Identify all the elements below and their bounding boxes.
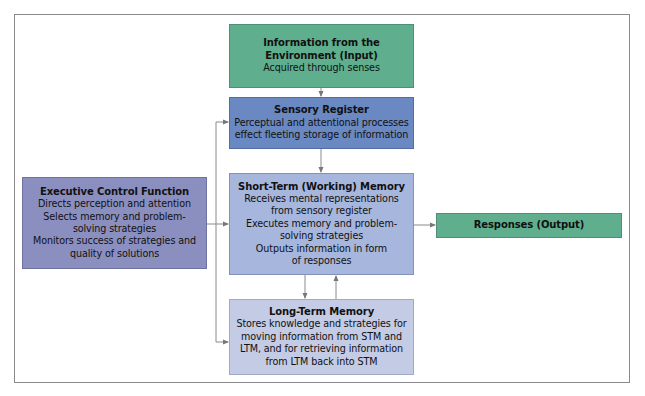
sensory-body-1: Perceptual and attentional processes [234, 117, 408, 129]
long-term-memory-box: Long-Term Memory Stores knowledge and st… [229, 299, 414, 375]
short-term-memory-box: Short-Term (Working) Memory Receives men… [229, 173, 414, 275]
responses-title: Responses (Output) [474, 219, 585, 231]
stm-body-2: from sensory register [271, 205, 372, 217]
ltm-body-2: moving information from STM and [241, 331, 402, 343]
stm-body-3: Executes memory and problem- [246, 218, 397, 230]
input-body: Acquired through senses [263, 62, 380, 74]
exec-body-3: solving strategies [73, 223, 156, 235]
exec-body-2: Selects memory and problem- [43, 211, 185, 223]
sensory-register-box: Sensory Register Perceptual and attentio… [229, 97, 414, 149]
input-title-1: Information from the [263, 37, 380, 49]
exec-body-1: Directs perception and attention [38, 198, 191, 210]
exec-body-5: quality of solutions [70, 248, 159, 260]
stm-body-1: Receives mental representations [244, 193, 399, 205]
sensory-body-2: effect fleeting storage of information [235, 129, 409, 141]
input-box: Information from the Environment (Input)… [229, 24, 414, 88]
exec-body-4: Monitors success of strategies and [33, 235, 196, 247]
ltm-body-1: Stores knowledge and strategies for [236, 318, 406, 330]
exec-title: Executive Control Function [40, 186, 189, 198]
input-title-2: Environment (Input) [265, 50, 378, 62]
executive-control-box: Executive Control Function Directs perce… [22, 177, 207, 269]
ltm-body-3: LTM, and for retrieving information [240, 343, 403, 355]
ltm-title: Long-Term Memory [269, 306, 374, 318]
stm-body-5: Outputs information in form [256, 243, 387, 255]
sensory-title: Sensory Register [274, 104, 369, 116]
stm-title: Short-Term (Working) Memory [238, 181, 405, 193]
stm-body-4: solving strategies [280, 230, 363, 242]
ltm-body-4: from LTM back into STM [266, 356, 378, 368]
stm-body-6: of responses [292, 255, 352, 267]
responses-box: Responses (Output) [436, 213, 622, 238]
